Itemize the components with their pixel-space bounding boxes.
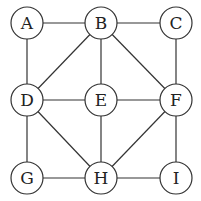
node-c-label: C <box>160 7 192 39</box>
node-h-label: H <box>85 162 117 194</box>
node-e-label: E <box>85 84 117 116</box>
node-g-label: G <box>11 162 43 194</box>
graph-diagram: A B C D E F G H I <box>0 0 201 201</box>
node-a-label: A <box>11 7 43 39</box>
node-b-label: B <box>85 7 117 39</box>
node-d-label: D <box>11 84 43 116</box>
node-i-label: I <box>160 162 192 194</box>
node-f-label: F <box>160 84 192 116</box>
